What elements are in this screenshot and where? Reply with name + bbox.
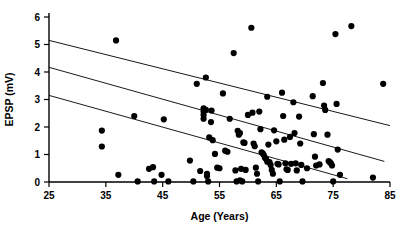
data-point [208, 119, 214, 125]
data-point [113, 37, 119, 43]
data-point [310, 93, 316, 99]
data-point [248, 25, 254, 31]
y-tick-label: 0 [34, 177, 40, 188]
data-point [312, 154, 318, 160]
data-point [282, 160, 288, 166]
data-point [252, 143, 258, 149]
data-point [231, 50, 237, 56]
y-axis-ticks: 0123456 [34, 12, 49, 188]
data-point [290, 99, 296, 105]
data-point [265, 142, 271, 148]
x-tick-label: 85 [384, 190, 396, 201]
data-point [224, 149, 230, 155]
y-axis-title: EPSP (mV) [3, 72, 15, 126]
data-point [150, 164, 156, 170]
data-point [161, 116, 167, 122]
data-point [297, 140, 303, 146]
data-point [203, 107, 209, 113]
data-point [212, 151, 218, 157]
plot-canvas: 25354555657585 0123456 Age (Years) EPSP … [0, 0, 415, 229]
data-point [237, 130, 243, 136]
x-tick-label: 35 [100, 190, 112, 201]
data-point [99, 143, 105, 149]
x-axis-ticks: 25354555657585 [43, 182, 396, 201]
data-point [204, 173, 210, 179]
upper-confidence-line [49, 40, 390, 125]
data-point [294, 167, 300, 173]
x-axis-title: Age (Years) [191, 210, 249, 222]
data-point [254, 171, 260, 177]
data-point [370, 175, 376, 181]
data-point [210, 137, 216, 143]
data-point [243, 167, 249, 173]
data-point [187, 157, 193, 163]
axes-group [49, 13, 390, 182]
data-point [249, 110, 255, 116]
data-point [285, 167, 291, 173]
data-point [256, 109, 262, 115]
data-point [273, 138, 279, 144]
data-point [311, 131, 317, 137]
data-point [322, 107, 328, 113]
data-points-group [99, 23, 387, 185]
data-point [131, 113, 137, 119]
data-point [280, 113, 286, 119]
data-point [158, 172, 164, 178]
data-point [276, 161, 282, 167]
data-point [194, 81, 200, 87]
data-point [335, 146, 341, 152]
y-tick-label: 1 [34, 149, 40, 160]
data-point [333, 101, 339, 107]
data-point [203, 74, 209, 80]
data-point [99, 127, 105, 133]
data-point [232, 167, 238, 173]
data-point [270, 171, 276, 177]
y-tick-label: 6 [34, 12, 40, 23]
data-point [281, 137, 287, 143]
data-point [293, 160, 299, 166]
data-point [324, 132, 330, 138]
scatter-plot-figure: 25354555657585 0123456 Age (Years) EPSP … [0, 0, 415, 229]
data-point [291, 130, 297, 136]
data-point [296, 113, 302, 119]
x-tick-label: 45 [157, 190, 169, 201]
data-point [329, 162, 335, 168]
data-point [380, 81, 386, 87]
y-tick-label: 3 [34, 94, 40, 105]
data-point [320, 80, 326, 86]
data-point [253, 165, 259, 171]
data-point [241, 140, 247, 146]
data-point [264, 94, 270, 100]
data-point [271, 127, 277, 133]
fit-lines-group [49, 40, 390, 178]
data-point [337, 172, 343, 178]
y-tick-label: 5 [34, 39, 40, 50]
x-tick-label: 25 [43, 190, 55, 201]
x-tick-label: 55 [214, 190, 226, 201]
y-tick-label: 4 [34, 67, 40, 78]
data-point [332, 31, 338, 37]
data-point [197, 168, 203, 174]
data-point [316, 161, 322, 167]
data-point [216, 165, 222, 171]
x-tick-label: 65 [271, 190, 283, 201]
data-point [279, 90, 285, 96]
data-point [227, 116, 233, 122]
y-tick-label: 2 [34, 122, 40, 133]
data-point [115, 172, 121, 178]
data-point [257, 126, 263, 132]
data-point [298, 162, 304, 168]
data-point [220, 90, 226, 96]
data-point [200, 116, 206, 122]
x-tick-label: 75 [328, 190, 340, 201]
data-point [208, 107, 214, 113]
data-point [304, 165, 310, 171]
data-point [348, 23, 354, 29]
